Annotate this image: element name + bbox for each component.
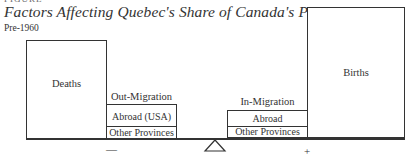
triangle-fulcrum-icon bbox=[203, 139, 227, 152]
plus-sign: + bbox=[304, 145, 310, 157]
in-migration-label: In-Migration bbox=[227, 96, 308, 107]
deaths-box: Deaths bbox=[26, 40, 107, 139]
minus-sign: — bbox=[106, 143, 117, 155]
in-migration-abroad: Abroad bbox=[228, 113, 307, 124]
deaths-label: Deaths bbox=[27, 78, 106, 89]
births-box: Births bbox=[307, 7, 405, 138]
out-migration-other-provinces: Other Provinces bbox=[107, 127, 176, 138]
period-label: Pre-1960 bbox=[4, 23, 39, 33]
births-label: Births bbox=[308, 67, 404, 78]
out-migration-label: Out-Migration bbox=[106, 91, 177, 102]
in-migration-other-provinces: Other Provinces bbox=[228, 126, 307, 137]
in-migration-box: Abroad Other Provinces bbox=[227, 110, 308, 138]
out-migration-box: Abroad (USA) Other Provinces bbox=[106, 104, 177, 139]
out-migration-abroad: Abroad (USA) bbox=[107, 111, 176, 122]
